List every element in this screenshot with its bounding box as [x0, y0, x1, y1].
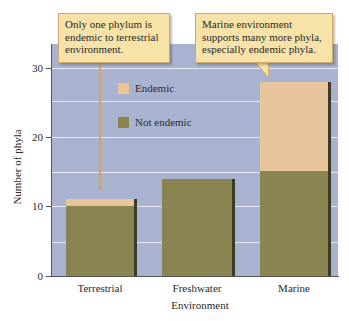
- callout-marine: Marine environment supports many more ph…: [195, 13, 333, 63]
